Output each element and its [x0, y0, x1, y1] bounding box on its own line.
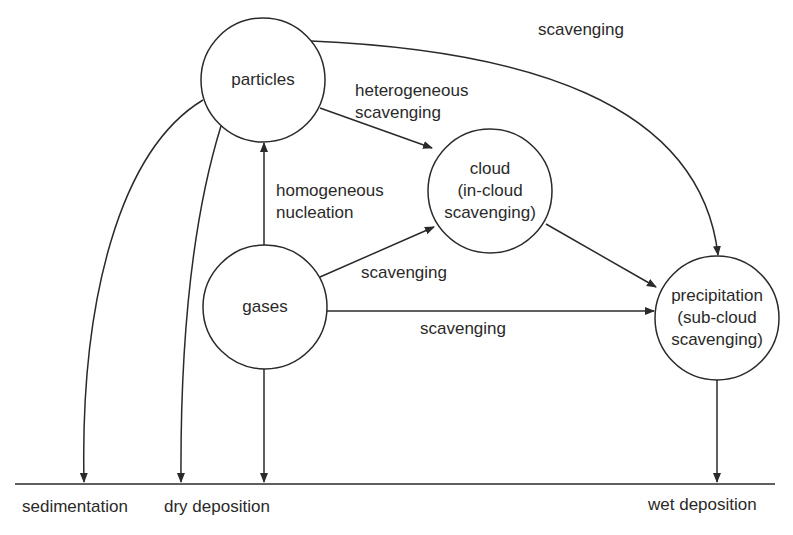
precipitation-label-line-2: (sub-cloud: [671, 307, 763, 329]
precipitation-label-line-1: precipitation: [671, 285, 763, 307]
ground-label-sedimentation: sedimentation: [22, 496, 128, 518]
edge-label-gases-precipitation: scavenging: [420, 318, 506, 340]
particles-label-line: particles: [231, 69, 294, 91]
cloud-label-line-1: cloud: [444, 158, 536, 180]
cloud-label-line-3: scavenging): [444, 202, 536, 224]
edge-label-gases-cloud: scavenging: [361, 262, 447, 284]
ground-label-wet-deposition: wet deposition: [648, 494, 757, 516]
edge-label-homogeneous-2: nucleation: [276, 202, 354, 224]
edge-label-heterogeneous-1: heterogeneous: [355, 80, 468, 102]
cloud-label-line-2: (in-cloud: [444, 180, 536, 202]
edge-particles-sedimentation: [84, 100, 203, 482]
edge-label-particles-precipitation: scavenging: [538, 19, 624, 41]
precipitation-label-line-3: scavenging): [671, 329, 763, 351]
edge-particles-dry-deposition: [181, 126, 221, 482]
ground-label-dry-deposition: dry deposition: [164, 496, 270, 518]
gases-label: gases: [242, 296, 287, 318]
cloud-label: cloud (in-cloud scavenging): [444, 158, 536, 224]
particles-label: particles: [231, 69, 294, 91]
precipitation-label: precipitation (sub-cloud scavenging): [671, 285, 763, 351]
edge-cloud-precipitation: [546, 224, 656, 287]
edge-label-homogeneous-1: homogeneous: [276, 180, 384, 202]
edge-label-heterogeneous-2: scavenging: [355, 102, 441, 124]
gases-label-line: gases: [242, 296, 287, 318]
